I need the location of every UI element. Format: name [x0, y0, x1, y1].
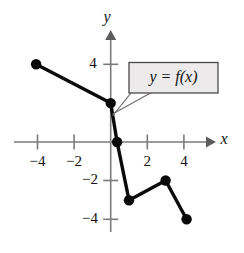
data-point-1: [106, 98, 116, 108]
x-tick-label--4: −4: [30, 153, 46, 169]
x-tick-label-4: 4: [180, 153, 188, 169]
y-axis-arrow-icon: [105, 30, 116, 40]
data-point-4: [160, 175, 170, 185]
x-axis-label: x: [219, 130, 227, 147]
leader-line-upper: [113, 93, 152, 114]
data-point-2: [112, 137, 122, 147]
callout-box-group: y = f(x): [129, 63, 218, 94]
x-tick-label-2: 2: [144, 153, 152, 169]
callout-leader-group: [113, 93, 152, 116]
data-point-0: [31, 59, 41, 69]
coordinate-plane: −4 −2 2 4 4 −2 −4 x y: [0, 0, 244, 253]
y-axis-label: y: [101, 8, 111, 26]
y-tick-label-4: 4: [89, 55, 97, 71]
x-axis-arrow-icon: [206, 137, 216, 148]
data-point-5: [181, 214, 191, 224]
callout-label: y = f(x): [147, 68, 197, 86]
data-point-3: [124, 195, 134, 205]
graph-figure: −4 −2 2 4 4 −2 −4 x y: [0, 0, 244, 253]
y-tick-label--2: −2: [82, 171, 98, 187]
x-tick-label--2: −2: [66, 153, 82, 169]
y-tick-label--4: −4: [82, 210, 98, 226]
